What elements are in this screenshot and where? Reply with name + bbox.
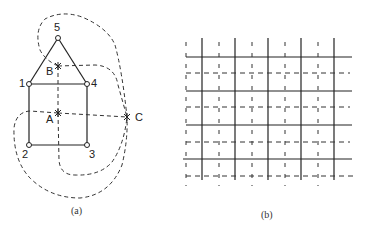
figure-a: 5 1 4 2 3 B A C (a) — [14, 14, 143, 217]
caption-a: (a) — [71, 205, 82, 217]
figure-b: (b) — [183, 38, 354, 221]
dual-edge-a-c-bottom — [58, 113, 127, 175]
dual-point-c-mark — [124, 113, 130, 121]
vertex-5 — [56, 36, 61, 41]
vertex-1 — [27, 82, 32, 87]
dual-edges — [14, 14, 127, 198]
dual-edge-b-c — [58, 65, 127, 117]
vertex-label-5: 5 — [54, 21, 60, 33]
dual-label-a: A — [46, 113, 54, 125]
vertex-4 — [85, 82, 90, 87]
figure-canvas: 5 1 4 2 3 B A C (a) — [0, 0, 367, 236]
caption-b: (b) — [261, 209, 273, 221]
vertex-3 — [85, 143, 90, 148]
grid-dashed-verticals — [186, 42, 318, 186]
vertex-label-3: 3 — [89, 148, 95, 160]
dual-label-b: B — [46, 65, 53, 77]
vertex-label-1: 1 — [19, 77, 25, 89]
dual-edge-a-c-outer — [14, 111, 127, 198]
edge-5-4 — [58, 38, 87, 84]
dual-points — [55, 62, 130, 121]
vertex-2 — [27, 143, 32, 148]
dual-edge-a-c-right — [58, 113, 127, 117]
dual-label-c: C — [135, 111, 143, 123]
vertex-label-2: 2 — [22, 148, 28, 160]
edge-5-1 — [29, 38, 58, 84]
vertex-label-4: 4 — [91, 77, 97, 89]
